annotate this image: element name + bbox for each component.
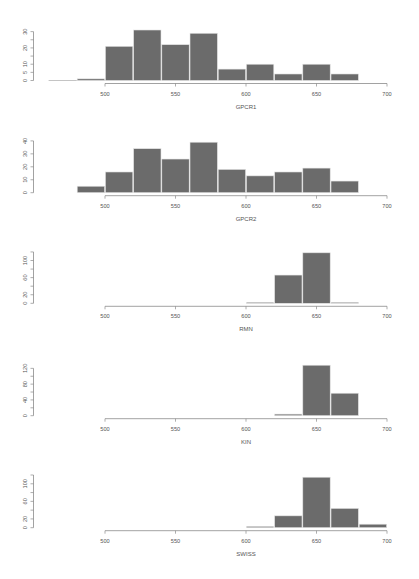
histogram-bar xyxy=(331,181,358,193)
histogram-figure: 500550600650700GPCR105102030500550600650… xyxy=(0,0,419,579)
histogram-panel-gpcr2: 500550600650700GPCR2010203040 xyxy=(22,138,392,222)
histogram-bar xyxy=(134,149,161,193)
y-tick-label: 120 xyxy=(22,364,28,373)
x-axis: 500550600650700RMN xyxy=(100,306,391,332)
x-tick-label: 500 xyxy=(100,91,109,97)
histogram-bar xyxy=(331,393,358,415)
histogram-bars xyxy=(246,477,386,528)
x-tick-label: 550 xyxy=(171,91,180,97)
y-tick-label: 100 xyxy=(22,256,28,265)
histogram-bar xyxy=(190,33,217,80)
x-tick-label: 700 xyxy=(382,91,391,97)
histogram-panel-gpcr1: 500550600650700GPCR105102030 xyxy=(22,29,392,110)
histogram-bar xyxy=(359,524,386,528)
x-tick-label: 700 xyxy=(382,426,391,432)
y-tick-label: 30 xyxy=(22,29,28,35)
histogram-bar xyxy=(105,46,132,80)
histogram-bar xyxy=(275,414,302,416)
histogram-bar xyxy=(331,302,358,303)
x-tick-label: 650 xyxy=(312,91,321,97)
x-tick-label: 650 xyxy=(312,313,321,319)
histogram-bar xyxy=(275,516,302,528)
histogram-bars xyxy=(275,365,359,416)
x-tick-label: 500 xyxy=(100,426,109,432)
y-axis: 02060100 xyxy=(22,252,34,305)
x-tick-label: 600 xyxy=(241,426,250,432)
y-tick-label: 10 xyxy=(22,177,28,183)
y-tick-label: 0 xyxy=(22,302,28,305)
y-axis: 02060100 xyxy=(22,475,34,529)
histogram-bar xyxy=(303,168,330,193)
x-axis-title: SWISS xyxy=(236,551,255,557)
x-tick-label: 550 xyxy=(171,538,180,544)
y-tick-label: 5 xyxy=(22,71,28,74)
y-axis: 04080120 xyxy=(22,364,34,418)
histogram-bar xyxy=(303,64,330,80)
histogram-bar xyxy=(303,477,330,528)
x-tick-label: 600 xyxy=(241,313,250,319)
x-axis-title: KIN xyxy=(241,439,251,445)
histogram-bar xyxy=(246,526,273,527)
histogram-bar xyxy=(246,302,273,303)
histogram-bar xyxy=(77,186,104,192)
y-tick-label: 30 xyxy=(22,151,28,157)
x-axis: 500550600650700KIN xyxy=(100,419,391,445)
histogram-panel-swiss: 500550600650700SWISS02060100 xyxy=(22,475,392,557)
y-tick-label: 40 xyxy=(22,138,28,144)
histogram-bar xyxy=(275,275,302,303)
y-tick-label: 20 xyxy=(22,516,28,522)
x-axis-title: RMN xyxy=(239,326,253,332)
histogram-bar xyxy=(162,45,189,81)
histogram-bar xyxy=(331,74,358,81)
x-tick-label: 550 xyxy=(171,313,180,319)
stacked-histograms: 500550600650700GPCR105102030500550600650… xyxy=(0,0,419,579)
x-tick-label: 550 xyxy=(171,203,180,209)
x-axis: 500550600650700GPCR2 xyxy=(100,196,391,222)
histogram-bar xyxy=(105,172,132,193)
histogram-bar xyxy=(275,74,302,81)
histogram-bars xyxy=(77,142,358,193)
y-tick-label: 0 xyxy=(22,526,28,529)
x-axis-title: GPCR2 xyxy=(236,216,257,222)
y-tick-label: 20 xyxy=(22,292,28,298)
y-axis: 010203040 xyxy=(22,138,34,194)
histogram-bar xyxy=(246,176,273,193)
x-tick-label: 600 xyxy=(241,538,250,544)
histogram-bar xyxy=(162,159,189,193)
x-tick-label: 650 xyxy=(312,538,321,544)
y-tick-label: 0 xyxy=(22,414,28,417)
y-tick-label: 60 xyxy=(22,498,28,504)
y-tick-label: 40 xyxy=(22,397,28,403)
x-tick-label: 700 xyxy=(382,203,391,209)
x-tick-label: 500 xyxy=(100,538,109,544)
histogram-bars xyxy=(246,253,358,303)
histogram-bar xyxy=(134,30,161,81)
x-tick-label: 700 xyxy=(382,313,391,319)
y-tick-label: 0 xyxy=(22,191,28,194)
x-tick-label: 550 xyxy=(171,426,180,432)
histogram-bars xyxy=(49,30,359,81)
x-axis: 500550600650700SWISS xyxy=(100,531,391,557)
y-tick-label: 20 xyxy=(22,45,28,51)
y-axis: 05102030 xyxy=(22,29,34,83)
x-tick-label: 650 xyxy=(312,426,321,432)
histogram-bar xyxy=(218,169,245,192)
histogram-bar xyxy=(77,79,104,81)
histogram-bar xyxy=(218,69,245,80)
y-tick-label: 100 xyxy=(22,479,28,488)
histogram-bar xyxy=(246,64,273,80)
x-tick-label: 500 xyxy=(100,203,109,209)
y-tick-label: 80 xyxy=(22,381,28,387)
x-tick-label: 500 xyxy=(100,313,109,319)
x-axis: 500550600650700GPCR1 xyxy=(100,84,391,110)
x-tick-label: 600 xyxy=(241,203,250,209)
histogram-bar xyxy=(303,365,330,416)
histogram-bar xyxy=(331,508,358,527)
x-tick-label: 700 xyxy=(382,538,391,544)
y-tick-label: 10 xyxy=(22,61,28,67)
histogram-bar xyxy=(303,253,330,303)
histogram-panel-kin: 500550600650700KIN04080120 xyxy=(22,364,392,445)
x-tick-label: 600 xyxy=(241,91,250,97)
histogram-panel-rmn: 500550600650700RMN02060100 xyxy=(22,252,392,332)
y-tick-label: 60 xyxy=(22,275,28,281)
